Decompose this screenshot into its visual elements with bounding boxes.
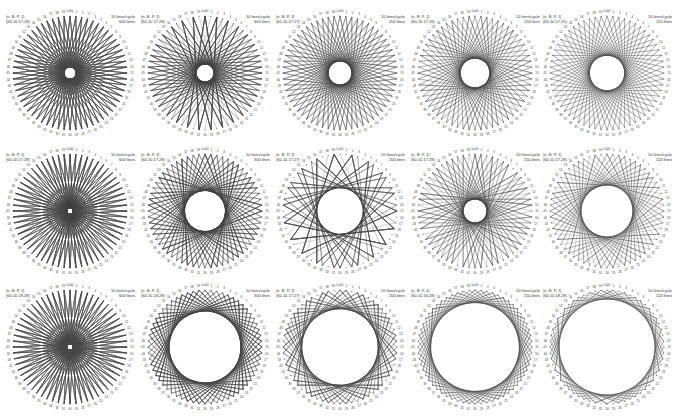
svg-text:58: 58 [55,11,59,15]
svg-text:32: 32 [460,270,464,274]
svg-text:44: 44 [277,216,281,220]
svg-text:17: 17 [666,358,670,362]
svg-text:7: 7 [648,25,650,29]
svg-text:6: 6 [511,295,513,299]
svg-text:14: 14 [667,65,671,69]
svg-text:22: 22 [651,251,655,255]
svg-text:42: 42 [279,228,283,232]
svg-text:37: 37 [27,255,31,259]
svg-text:21: 21 [388,108,392,112]
svg-text:36: 36 [167,121,171,125]
svg-text:6: 6 [643,159,645,163]
svg-text:9: 9 [524,35,526,39]
svg-text:49: 49 [12,46,16,50]
svg-text:40: 40 [420,376,424,380]
svg-text:9: 9 [254,173,256,177]
svg-text:46: 46 [277,65,281,69]
svg-text:47: 47 [143,58,147,62]
svg-text:53: 53 [564,163,568,167]
svg-text:48: 48 [144,326,148,330]
svg-text:57: 57 [454,12,458,16]
svg-text:45: 45 [411,71,415,75]
svg-text:51: 51 [288,35,292,39]
svg-text:33: 33 [319,404,323,408]
svg-text:51: 51 [288,309,292,313]
svg-text:43: 43 [143,222,147,226]
svg-text:56: 56 [448,289,452,293]
svg-text:29: 29 [75,407,79,411]
svg-text:21: 21 [253,108,257,112]
svg-text:23: 23 [515,117,519,121]
svg-text:12: 12 [664,190,668,194]
svg-text:2: 2 [619,149,621,153]
svg-text:47: 47 [278,196,282,200]
svg-text:39: 39 [423,246,427,250]
svg-text:45: 45 [276,345,280,349]
svg-text:29: 29 [480,271,484,275]
svg-text:8: 8 [520,168,522,172]
svg-text:51: 51 [18,35,22,39]
svg-text:31: 31 [332,407,336,411]
svg-text:20: 20 [527,376,531,380]
svg-text:58: 58 [325,149,329,153]
svg-text:39: 39 [288,246,292,250]
svg-text:31: 31 [197,271,201,275]
svg-text:43: 43 [413,84,417,88]
svg-text:57: 57 [49,286,53,290]
svg-text:44: 44 [142,352,146,356]
svg-text:16: 16 [667,352,671,356]
svg-text:53: 53 [27,299,31,303]
svg-text:19: 19 [662,234,666,238]
svg-text:49: 49 [549,46,553,50]
svg-text:34: 34 [178,128,182,132]
svg-text:43: 43 [8,84,12,88]
svg-text:12: 12 [397,52,401,56]
svg-text:48: 48 [279,190,283,194]
svg-text:8: 8 [250,304,252,308]
svg-text:25: 25 [636,263,640,267]
svg-text:9: 9 [119,309,121,313]
svg-text:32: 32 [460,132,464,136]
svg-text:20: 20 [257,102,261,106]
svg-text:18: 18 [397,364,401,368]
svg-text:19: 19 [530,96,534,100]
svg-text:12: 12 [664,52,668,56]
svg-text:33: 33 [454,268,458,272]
svg-text:16: 16 [400,216,404,220]
svg-text:30: 30 [203,407,207,411]
svg-text:46: 46 [412,339,416,343]
svg-text:19: 19 [395,96,399,100]
svg-text:30: 30 [473,407,477,411]
svg-text:24: 24 [375,121,379,125]
svg-text:6: 6 [511,21,513,25]
svg-text:56: 56 [580,289,584,293]
svg-text:19: 19 [260,370,264,374]
svg-text:50: 50 [420,40,424,44]
string-art-panel: 0=60123456789101112131415161718192021222… [408,140,542,276]
svg-text:59: 59 [332,10,336,14]
svg-text:21: 21 [253,246,257,250]
diagram-grid: 0=60123456789101112131415161718192021222… [0,0,674,419]
svg-text:58: 58 [460,11,464,15]
svg-text:6: 6 [241,21,243,25]
svg-text:23: 23 [380,255,384,259]
svg-text:33: 33 [586,130,590,134]
svg-text:56: 56 [448,15,452,19]
svg-text:37: 37 [564,391,568,395]
svg-text:50: 50 [420,314,424,318]
svg-text:36: 36 [302,395,306,399]
svg-text:13: 13 [129,332,133,336]
svg-text:7: 7 [516,25,518,29]
svg-text:59: 59 [197,148,201,152]
svg-text:18: 18 [262,228,266,232]
svg-text:38: 38 [22,113,26,117]
svg-text:57: 57 [184,150,188,154]
svg-text:43: 43 [545,358,549,362]
svg-text:40: 40 [420,102,424,106]
svg-text:34: 34 [580,402,584,406]
svg-text:0=60: 0=60 [202,283,209,287]
svg-text:16: 16 [667,78,671,82]
svg-text:10: 10 [527,40,531,44]
svg-text:10: 10 [122,40,126,44]
svg-text:23: 23 [647,255,651,259]
